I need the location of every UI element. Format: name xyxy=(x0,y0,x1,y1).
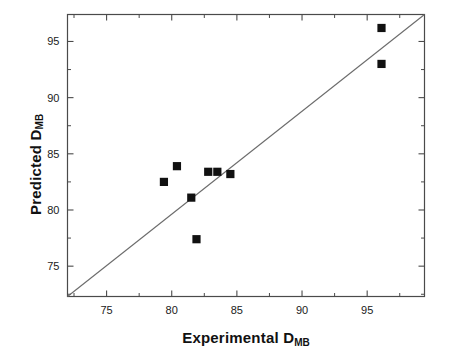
data-point xyxy=(192,235,200,243)
x-tick-label: 75 xyxy=(100,304,112,316)
x-tick-label: 80 xyxy=(166,304,178,316)
y-tick-label: 75 xyxy=(36,260,60,272)
x-axis-label: Experimental DMB xyxy=(67,329,425,348)
x-tick-label: 95 xyxy=(361,304,373,316)
y-tick-label: 90 xyxy=(36,92,60,104)
data-point xyxy=(204,168,212,176)
data-point-group xyxy=(160,24,386,243)
x-tick-label: 90 xyxy=(296,304,308,316)
scatter-plot-figure: Predicted DMB Experimental DMB 758085909… xyxy=(0,0,449,360)
y-axis-label-subscript: MB xyxy=(34,114,45,130)
data-point xyxy=(213,168,221,176)
x-axis-label-subscript: MB xyxy=(294,337,310,348)
data-point xyxy=(377,60,385,68)
data-point xyxy=(160,178,168,186)
y-axis-label-text: Predicted D xyxy=(27,129,44,215)
data-point xyxy=(173,162,181,170)
data-point xyxy=(226,170,234,178)
y-tick-label: 80 xyxy=(36,204,60,216)
y-tick-label: 85 xyxy=(36,148,60,160)
x-axis-label-text: Experimental D xyxy=(182,329,294,346)
y-axis-label: Predicted DMB xyxy=(27,44,46,284)
plot-canvas xyxy=(0,0,449,360)
y-tick-label: 95 xyxy=(36,35,60,47)
reference-line xyxy=(68,15,425,297)
data-point xyxy=(377,24,385,32)
x-tick-label: 85 xyxy=(231,304,243,316)
data-point xyxy=(187,194,195,202)
